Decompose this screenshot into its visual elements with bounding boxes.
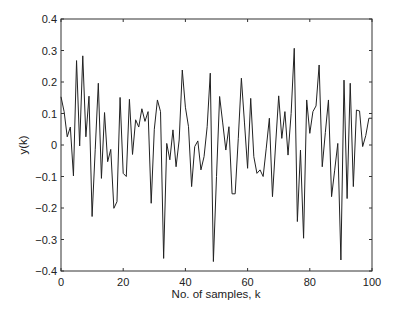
y-tick-label: 0 bbox=[51, 139, 57, 151]
data-series-line bbox=[61, 48, 372, 261]
line-chart: −0.4−0.3−0.2−0.100.10.20.30.4 0204060801… bbox=[0, 0, 397, 315]
y-tick-label: 0.3 bbox=[42, 45, 57, 57]
x-tick-label: 20 bbox=[117, 276, 129, 288]
x-tick-label: 0 bbox=[58, 276, 64, 288]
y-tick-label: 0.2 bbox=[42, 76, 57, 88]
x-tick-label: 80 bbox=[304, 276, 316, 288]
x-tick-label: 100 bbox=[363, 276, 381, 288]
y-tick-label: −0.2 bbox=[35, 202, 57, 214]
x-tick-labels: 020406080100 bbox=[58, 276, 381, 288]
y-tick-label: 0.1 bbox=[42, 108, 57, 120]
x-tick-label: 40 bbox=[179, 276, 191, 288]
x-axis-label: No. of samples, k bbox=[172, 288, 261, 300]
y-tick-label: −0.3 bbox=[35, 234, 57, 246]
axis-ticks bbox=[61, 19, 372, 271]
y-tick-labels: −0.4−0.3−0.2−0.100.10.20.30.4 bbox=[35, 13, 57, 277]
axes-box bbox=[61, 19, 372, 271]
plot-frame bbox=[61, 19, 372, 271]
y-axis-label: y(k) bbox=[17, 135, 29, 154]
x-tick-label: 60 bbox=[241, 276, 253, 288]
y-tick-label: −0.1 bbox=[35, 171, 57, 183]
y-tick-label: 0.4 bbox=[42, 13, 57, 25]
y-tick-label: −0.4 bbox=[35, 265, 57, 277]
